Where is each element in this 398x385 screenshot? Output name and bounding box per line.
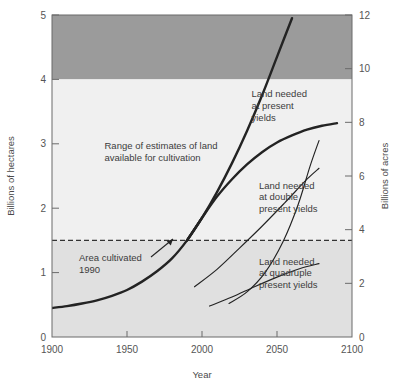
y-tick-label-right-2: 2	[359, 278, 365, 289]
annotation-line: available for cultivation	[105, 152, 201, 163]
y-tick-label-right-4: 4	[359, 224, 365, 235]
y-tick-label-left-0: 0	[40, 332, 46, 343]
y-tick-label-left-5: 5	[40, 10, 46, 21]
x-tick-label-2100: 2100	[341, 344, 364, 355]
annotation-line: present yields	[259, 279, 318, 290]
land-availability-chart: 19001950200020502100012345024681012 Rang…	[0, 0, 398, 385]
y-tick-label-right-6: 6	[359, 171, 365, 182]
y-tick-label-right-12: 12	[359, 10, 371, 21]
x-axis-label: Year	[192, 369, 211, 380]
y-tick-label-right-0: 0	[359, 332, 365, 343]
annotation-range-of-estimates: Range of estimates of landavailable for …	[105, 140, 218, 163]
y-tick-label-left-3: 3	[40, 138, 46, 149]
x-tick-label-2050: 2050	[266, 344, 289, 355]
annotation-line: Land needed	[259, 256, 314, 267]
annotation-line: at quadruple	[259, 267, 312, 278]
annotation-line: Land needed	[259, 180, 314, 191]
annotation-line: Land needed	[252, 88, 307, 99]
x-tick-label-1950: 1950	[116, 344, 139, 355]
chart-container: 19001950200020502100012345024681012 Rang…	[0, 0, 398, 385]
annotation-land-needed-quadruple-present-yields: Land neededat quadruplepresent yields	[259, 256, 318, 290]
x-tick-label-2000: 2000	[191, 344, 214, 355]
annotation-line: Range of estimates of land	[105, 140, 218, 151]
annotation-line: Area cultivated	[79, 252, 142, 263]
annotation-line: present yields	[259, 203, 318, 214]
y-axis-label-left: Billions of hectares	[5, 136, 16, 216]
upper-estimate-band	[52, 15, 352, 79]
x-tick-label-1900: 1900	[41, 344, 64, 355]
annotation-line: 1990	[79, 264, 100, 275]
y-tick-label-right-8: 8	[359, 117, 365, 128]
y-tick-label-left-4: 4	[40, 74, 46, 85]
y-tick-label-left-1: 1	[40, 267, 46, 278]
y-tick-label-right-10: 10	[359, 63, 371, 74]
annotation-line: at double	[259, 191, 298, 202]
annotation-line: yields	[252, 112, 277, 123]
y-tick-label-left-2: 2	[40, 203, 46, 214]
y-axis-label-right: Billions of acres	[379, 142, 390, 209]
annotation-line: at present	[252, 100, 295, 111]
